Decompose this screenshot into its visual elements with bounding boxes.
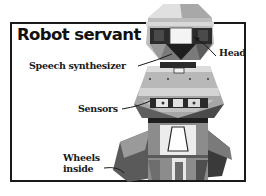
label-wheels-line2: inside (63, 164, 100, 175)
sensor-section (134, 88, 224, 118)
label-wheels-inside: Wheels inside (63, 153, 100, 175)
lower-body (148, 118, 208, 180)
label-sensors: Sensors (78, 104, 118, 115)
diagram-title: Robot servant (17, 27, 141, 44)
upper-torso (140, 62, 218, 88)
label-head: Head (219, 48, 246, 59)
robot-head (146, 4, 214, 60)
label-speech-synthesizer: Speech synthesizer (29, 61, 126, 72)
